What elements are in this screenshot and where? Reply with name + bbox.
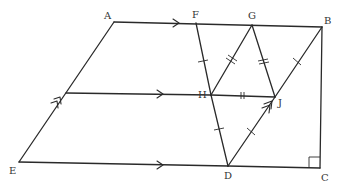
segment-GJ — [252, 25, 275, 97]
segment-HD — [211, 95, 228, 166]
label-C: C — [321, 172, 329, 183]
segment-AB — [114, 22, 322, 27]
segment-FH — [196, 23, 211, 95]
segment-DC — [228, 166, 320, 168]
right-angle-marker — [309, 157, 320, 168]
segment-JB — [275, 27, 322, 97]
segment-midline — [66, 93, 211, 95]
segment-EA — [19, 22, 114, 162]
label-E: E — [9, 165, 16, 176]
segment-GH — [211, 25, 252, 95]
diagram-svg: A F G B H J D C E — [0, 0, 338, 189]
label-F: F — [192, 9, 199, 20]
label-D: D — [224, 170, 232, 181]
tick-FH — [198, 60, 208, 62]
label-A: A — [103, 10, 112, 21]
label-B: B — [324, 15, 331, 26]
label-J: J — [277, 97, 282, 108]
label-G: G — [248, 10, 256, 21]
segment-HJ — [211, 95, 275, 97]
segment-ED — [19, 162, 228, 166]
label-H: H — [198, 89, 207, 100]
segment-BC — [320, 27, 322, 168]
geometry-diagram: A F G B H J D C E — [0, 0, 338, 189]
